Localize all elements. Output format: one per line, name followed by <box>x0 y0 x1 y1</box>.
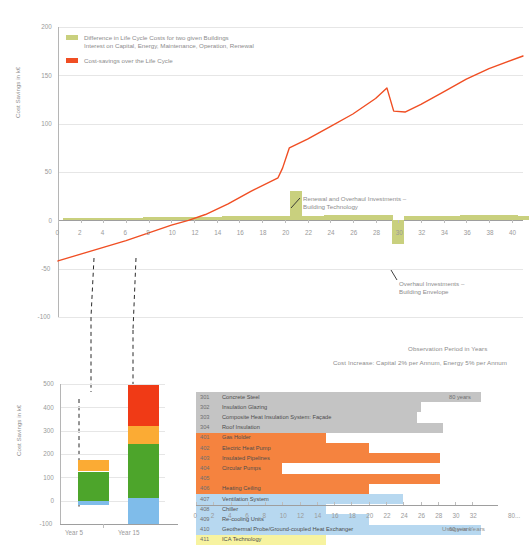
usage-row-name: Gas Holder <box>222 434 251 440</box>
bl-chart-bar-layer <box>60 384 165 524</box>
bl-y-tick-label: 0 <box>50 497 54 504</box>
bl-y-tick-label: 200 <box>43 450 54 457</box>
br-x-tick-label: 30 <box>452 512 459 519</box>
usage-row-code: 411 <box>200 536 209 542</box>
br-x-tick <box>472 502 473 505</box>
usage-row-note: 80 years <box>449 394 471 400</box>
usage-table-row[interactable]: 406Heating Ceiling <box>196 484 532 494</box>
usage-row-name: Concrete Steel <box>222 394 260 400</box>
usage-row-code: 403 <box>200 455 210 461</box>
usage-table-row[interactable]: 302Insulation Glazing <box>196 402 532 412</box>
usage-row-name: Ventilation System <box>222 496 269 502</box>
usage-row-code: 410 <box>200 526 210 532</box>
usage-table-row[interactable]: 304Roof Insulation <box>196 423 532 433</box>
usage-table-row[interactable]: 402Electric Heat Pump <box>196 443 532 453</box>
bl-category-label-year15: Year 15 <box>118 529 139 536</box>
usage-table-row[interactable]: 303Composite Heat Insulation System: Faç… <box>196 412 532 422</box>
bl-chart-plot-area <box>60 384 165 524</box>
figure-root: Cost Savings in k€ 200150100500-50-100 0… <box>0 0 532 553</box>
usage-row-name: Insulated Pipelines <box>222 455 270 461</box>
br-x-tick <box>386 502 387 505</box>
bar-segment-green-segment <box>78 472 109 501</box>
usage-bar <box>196 474 440 484</box>
br-chart-x-axis-label: Usage in Years <box>442 525 485 532</box>
cost-savings-year-chart: Cost Savings in k€ 5004003002001000-100 … <box>0 378 200 553</box>
usage-row-name: ICA Technology <box>222 536 261 542</box>
br-x-tick-label: 14 <box>314 512 321 519</box>
bar-segment-orange-segment <box>78 460 109 471</box>
usage-row-name: Composite Heat Insulation System: Façade <box>222 414 331 420</box>
br-x-tick-label: 32 <box>470 512 477 519</box>
bar-segment-blue-segment <box>78 501 109 506</box>
br-x-tick <box>231 502 232 505</box>
br-x-tick <box>455 502 456 505</box>
br-x-tick-label: 18 <box>349 512 356 519</box>
br-x-tick-label: 10 <box>280 512 287 519</box>
bl-y-tick-label: 100 <box>43 474 54 481</box>
usage-in-years-chart: 301Concrete Steel80 years302Insulation G… <box>196 392 532 553</box>
usage-row-name: Geothermal Probe/Ground-coupled Heat Exc… <box>222 526 353 532</box>
usage-row-name: Electric Heat Pump <box>222 445 271 451</box>
br-x-tick <box>248 502 249 505</box>
br-x-tick-label: 22 <box>383 512 390 519</box>
bl-chart-y-axis-label: Cost Savings in k€ <box>15 405 22 456</box>
br-x-tick <box>213 502 214 505</box>
usage-row-name: Circular Pumps <box>222 465 261 471</box>
br-x-tick-label-extra: 80... <box>508 512 520 519</box>
usage-row-code: 406 <box>200 485 210 491</box>
usage-table-row[interactable]: 411ICA Technology <box>196 535 532 545</box>
usage-row-code: 302 <box>200 404 210 410</box>
usage-row-name: Heating Ceiling <box>222 485 261 491</box>
usage-row-code: 303 <box>200 414 210 420</box>
br-x-tick <box>300 502 301 505</box>
br-x-tick <box>196 502 197 505</box>
br-x-tick-label: 8 <box>262 512 266 519</box>
usage-row-code: 404 <box>200 465 210 471</box>
usage-row-code: 301 <box>200 394 210 400</box>
bl-x-tick-divider <box>103 524 104 528</box>
bar-segment-red-segment <box>128 385 159 426</box>
bar-segment-blue-segment <box>128 498 159 524</box>
bl-y-tick-label: -100 <box>40 520 53 527</box>
usage-row-code: 405 <box>200 475 210 481</box>
br-x-tick <box>421 502 422 505</box>
stacked-bar-year-15 <box>128 384 159 524</box>
br-x-tick <box>334 502 335 505</box>
br-x-tick-label: 6 <box>245 512 249 519</box>
bl-y-tick-label: 500 <box>43 380 54 387</box>
br-x-tick-label: 20 <box>366 512 373 519</box>
br-x-tick-label: 26 <box>418 512 425 519</box>
br-x-tick <box>369 502 370 505</box>
usage-row-name: Roof Insulation <box>222 424 260 430</box>
br-x-tick <box>265 502 266 505</box>
usage-row-name: Insulation Glazing <box>222 404 267 410</box>
bar-segment-green-segment <box>128 444 159 499</box>
usage-row-code: 407 <box>200 496 210 502</box>
br-x-tick <box>403 502 404 505</box>
stacked-bar-year-5 <box>78 384 109 524</box>
usage-row-code: 304 <box>200 424 210 430</box>
bl-y-tick-label: 300 <box>43 427 54 434</box>
br-x-tick-label: 4 <box>228 512 232 519</box>
bar-segment-orange-segment <box>128 426 159 444</box>
usage-table-row[interactable]: 403Insulated Pipelines <box>196 453 532 463</box>
bl-chart-x-axis <box>60 524 178 525</box>
br-x-tick-label: 24 <box>401 512 408 519</box>
usage-table-row[interactable]: 301Concrete Steel80 years <box>196 392 532 402</box>
usage-table-row[interactable]: 404Circular Pumps <box>196 463 532 473</box>
br-x-tick <box>351 502 352 505</box>
br-x-tick-label: 0 <box>193 512 197 519</box>
usage-table-row[interactable]: 401Gas Holder <box>196 433 532 443</box>
usage-row-code: 409 <box>200 516 210 522</box>
br-chart-tick-layer <box>196 505 498 509</box>
usage-row-code: 401 <box>200 434 210 440</box>
br-x-tick-label: 2 <box>211 512 215 519</box>
br-x-tick-label: 12 <box>297 512 304 519</box>
br-x-tick-label: 28 <box>435 512 442 519</box>
usage-table-row[interactable]: 407Ventilation System <box>196 494 532 504</box>
usage-bar <box>196 433 326 443</box>
bl-y-tick-label: 400 <box>43 404 54 411</box>
usage-table-row[interactable]: 405 <box>196 474 532 484</box>
br-x-tick <box>282 502 283 505</box>
br-x-tick <box>317 502 318 505</box>
